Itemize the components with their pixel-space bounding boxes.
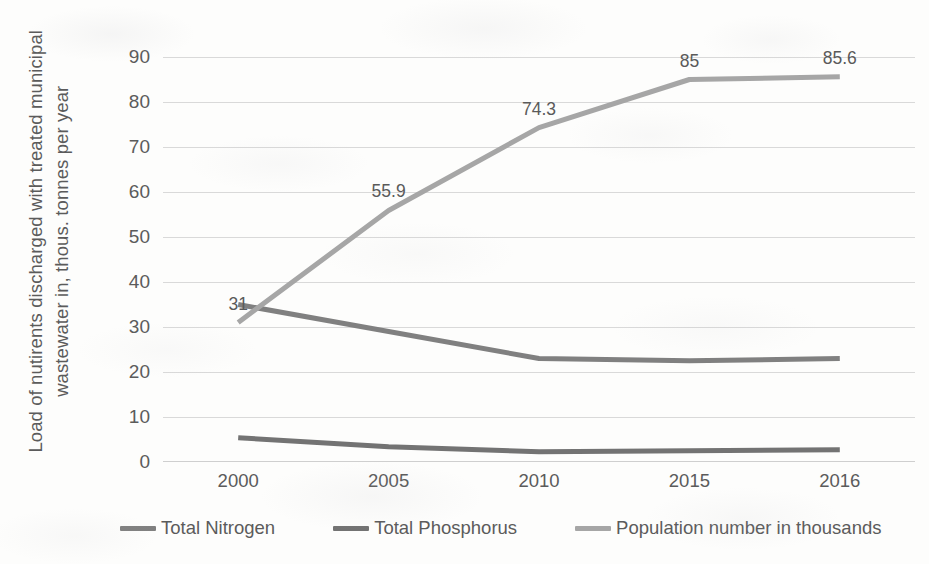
legend-item-label: Total Phosphorus — [374, 517, 517, 539]
x-axis-tick-label: 2005 — [368, 470, 409, 492]
legend-item-label: Population number in thousands — [616, 517, 881, 539]
y-axis-tick-label: 0 — [139, 451, 150, 473]
line-chart: Load of nutirents discharged with treate… — [0, 0, 929, 564]
y-axis-tick-label: 30 — [129, 316, 150, 338]
data-label: 55.9 — [372, 181, 406, 202]
x-axis-tick-label: 2010 — [518, 470, 559, 492]
y-axis-tick-label: 20 — [129, 361, 150, 383]
legend-line-swatch-icon — [333, 526, 369, 531]
y-axis-tick-label: 10 — [129, 406, 150, 428]
data-label: 31 — [228, 294, 247, 315]
legend-item[interactable]: Population number in thousands — [575, 517, 881, 539]
x-axis-tick-label: 2016 — [819, 470, 860, 492]
y-axis-tick-label: 40 — [129, 271, 150, 293]
y-axis-tick-label: 60 — [129, 181, 150, 203]
x-axis-tick-label: 2015 — [669, 470, 710, 492]
data-label: 85.6 — [823, 48, 857, 69]
data-label: 74.3 — [522, 99, 556, 120]
legend-item[interactable]: Total Nitrogen — [120, 517, 275, 539]
y-axis-title: Load of nutirents discharged with treate… — [23, 26, 76, 456]
y-axis-tick-label: 70 — [129, 136, 150, 158]
y-axis-tick-label: 50 — [129, 226, 150, 248]
legend-line-swatch-icon — [575, 526, 611, 531]
series-line-total-phosphorus — [238, 438, 840, 452]
plot-area: 0102030405060708090 3155.974.38585.6 — [163, 57, 915, 462]
y-axis-tick-label: 90 — [129, 46, 150, 68]
data-label: 85 — [680, 51, 699, 72]
y-axis-tick-label: 80 — [129, 91, 150, 113]
legend-item-label: Total Nitrogen — [161, 517, 275, 539]
legend-line-swatch-icon — [120, 526, 156, 531]
x-axis-tick-labels: 20002005201020152016 — [163, 470, 915, 498]
chart-legend: Total NitrogenTotal PhosphorusPopulation… — [120, 517, 881, 539]
series-line-total-nitrogen — [238, 305, 840, 361]
x-axis-tick-label: 2000 — [218, 470, 259, 492]
legend-item[interactable]: Total Phosphorus — [333, 517, 517, 539]
